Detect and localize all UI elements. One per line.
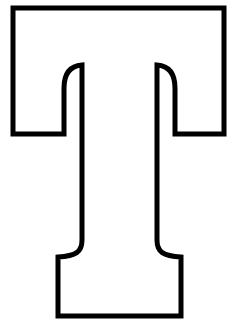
letter-t-outline (13, 8, 224, 316)
outlined-letter-t-icon (0, 0, 230, 336)
